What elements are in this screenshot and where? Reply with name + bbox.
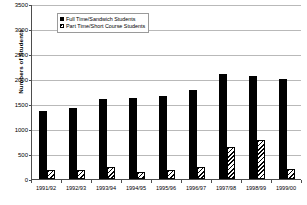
x-axis-tick-mark <box>271 180 272 183</box>
bar-full-time <box>99 99 106 179</box>
x-axis-tick-label: 1994/95 <box>121 185 151 192</box>
y-axis-tick-labels: 0500100015002000250030003500 <box>2 0 28 205</box>
x-axis-tick-mark <box>181 180 182 183</box>
y-axis-tick-label: 3000 <box>2 27 28 33</box>
x-axis-tick-labels: 1991/921992/931993/941994/951995/961996/… <box>31 185 301 199</box>
bar-full-time <box>189 90 196 180</box>
x-axis-tick-mark <box>31 180 32 183</box>
bar-full-time <box>39 111 46 180</box>
x-axis-tick-label: 1997/98 <box>211 185 241 192</box>
bar-full-time <box>249 76 256 180</box>
x-axis-tick-mark <box>91 180 92 183</box>
x-axis-tick-label: 1999/00 <box>271 185 301 192</box>
bar-group <box>182 5 212 179</box>
bar-group <box>212 5 242 179</box>
bar-full-time <box>279 79 286 179</box>
x-axis-tick-label: 1991/92 <box>31 185 61 192</box>
bar-full-time <box>219 74 226 179</box>
bar-part-time <box>77 170 84 179</box>
bar-group <box>272 5 302 179</box>
x-axis-tick-label: 1992/93 <box>61 185 91 192</box>
bar-full-time <box>69 108 76 179</box>
x-axis-tick-mark <box>301 180 302 183</box>
x-axis-tick-mark <box>151 180 152 183</box>
bar-group <box>152 5 182 179</box>
bar-part-time <box>47 170 54 180</box>
bar-part-time <box>137 172 144 180</box>
y-axis-tick-label: 2500 <box>2 52 28 58</box>
chart-legend: Full Time/Sandwich Students Part Time/Sh… <box>57 13 149 33</box>
legend-swatch-part-time-icon <box>60 24 64 28</box>
y-axis-tick-label: 500 <box>2 152 28 158</box>
legend-item-full-time: Full Time/Sandwich Students <box>60 16 145 23</box>
x-axis-tick-mark <box>121 180 122 183</box>
legend-item-part-time: Part Time/Short Course Students <box>60 23 145 30</box>
x-axis-tick-marks <box>31 180 301 183</box>
y-axis-tick-label: 1000 <box>2 127 28 133</box>
legend-swatch-full-time-icon <box>60 17 64 21</box>
y-axis-tick-label: 0 <box>2 177 28 183</box>
bar-chart: Numbers of Students 05001000150020002500… <box>0 0 307 205</box>
x-axis-tick-label: 1998/99 <box>241 185 271 192</box>
x-axis-tick-mark <box>211 180 212 183</box>
bar-group <box>242 5 272 179</box>
bar-part-time <box>167 170 174 180</box>
bar-full-time <box>159 96 166 180</box>
x-axis-tick-label: 1995/96 <box>151 185 181 192</box>
bar-full-time <box>129 98 136 179</box>
x-axis-tick-mark <box>61 180 62 183</box>
legend-label-part-time: Part Time/Short Course Students <box>66 23 145 29</box>
y-axis-tick-label: 1500 <box>2 102 28 108</box>
bar-part-time <box>257 140 264 179</box>
bar-part-time <box>287 169 294 179</box>
x-axis-tick-label: 1993/94 <box>91 185 121 192</box>
y-axis-tick-label: 3500 <box>2 2 28 8</box>
y-axis-tick-label: 2000 <box>2 77 28 83</box>
bar-part-time <box>107 167 114 179</box>
bar-part-time <box>227 147 234 179</box>
x-axis-tick-label: 1996/97 <box>181 185 211 192</box>
legend-label-full-time: Full Time/Sandwich Students <box>66 16 136 22</box>
bar-part-time <box>197 167 204 179</box>
x-axis-tick-mark <box>241 180 242 183</box>
